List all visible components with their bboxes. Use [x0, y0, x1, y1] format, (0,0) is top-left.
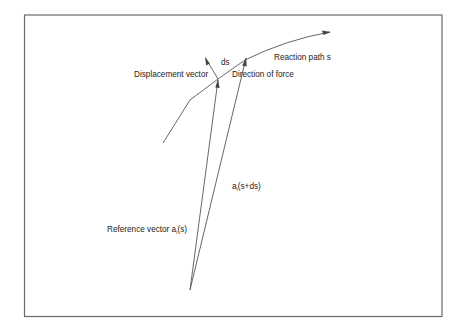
next-vector-label: ai(s+ds) [232, 183, 261, 192]
next-vector-label-suffix: (s+ds) [238, 182, 261, 191]
reference-vector-label: Reference vector ai(s) [107, 226, 187, 235]
reference-vector-label-suffix: (s) [177, 225, 187, 234]
reaction-path-diagram [0, 0, 466, 332]
reaction-path-arrowhead [322, 31, 331, 36]
reaction-path-label: Reaction path s [274, 54, 331, 62]
reference-vector-line [190, 80, 218, 290]
next-vector-line [190, 58, 246, 290]
direction-of-force-label: Direction of force [232, 71, 294, 79]
displacement-vector-label: Displacement vector [134, 71, 208, 79]
reference-vector-label-prefix: Reference vector a [107, 225, 176, 234]
figure-frame [25, 15, 443, 317]
reaction-path-curve [163, 32, 330, 143]
ds-label: ds [221, 59, 230, 67]
